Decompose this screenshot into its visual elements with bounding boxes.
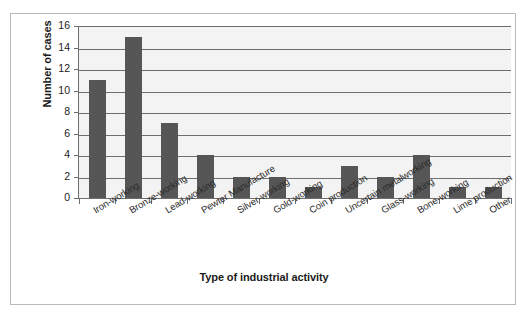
x-axis-title: Type of industrial activity [11,271,517,283]
y-axis-tick-label: 6 [24,127,70,139]
y-axis-tick-label: 12 [24,62,70,74]
y-axis-tick-label-wrap: 14 [11,48,70,49]
y-axis-tick-label: 16 [24,19,70,31]
y-axis-tick-label: 4 [24,148,70,160]
bar-series [79,26,511,198]
bar [89,80,106,198]
y-axis-tick-label-wrap: 8 [11,112,70,113]
y-axis-tick-label-wrap: 16 [11,26,70,27]
y-axis-tick-label-wrap: 10 [11,91,70,92]
y-axis-tick-label: 10 [24,84,70,96]
y-axis-tick-label-wrap: 4 [11,155,70,156]
y-axis-tick-label-wrap: 2 [11,177,70,178]
bar-chart: Number of cases 0246810121416 Iron-worki… [11,14,517,306]
y-axis-tick-label: 14 [24,41,70,53]
y-axis-tick-label: 2 [24,170,70,182]
y-axis-tick-label-wrap: 6 [11,134,70,135]
bar [125,37,142,198]
x-axis-category-labels: Iron-workingBronze-workingLead-workingPe… [11,204,517,274]
y-axis-tick-label: 0 [24,191,70,203]
y-axis-tick-label-wrap: 0 [11,198,70,199]
y-axis-tick-label: 8 [24,105,70,117]
chart-figure-frame: Number of cases 0246810121416 Iron-worki… [10,13,516,305]
y-axis-tick-label-wrap: 12 [11,69,70,70]
